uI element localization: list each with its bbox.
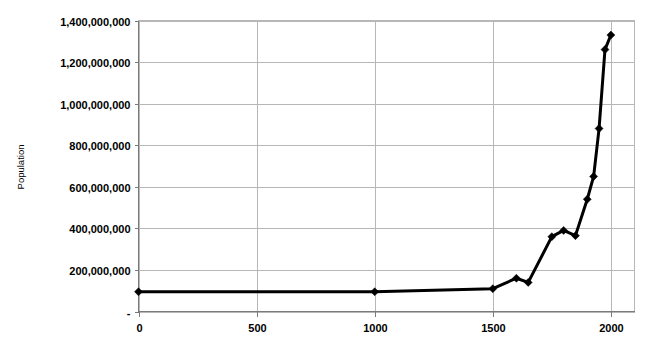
chart-background [0, 0, 647, 351]
y-tick-label: 200,000,000 [69, 265, 130, 277]
x-tick-label: 0 [136, 322, 142, 334]
x-tick-label: 1000 [363, 322, 387, 334]
chart-canvas: 1,400,000,0001,200,000,0001,000,000,0008… [0, 0, 647, 351]
y-tick-label: 400,000,000 [69, 223, 130, 235]
y-tick-label: - [127, 307, 131, 319]
y-tick-label: 1,200,000,000 [60, 57, 130, 69]
y-tick-label: 800,000,000 [69, 140, 130, 152]
x-tick-label: 2000 [599, 322, 623, 334]
population-chart: 1,400,000,0001,200,000,0001,000,000,0008… [0, 0, 647, 351]
x-tick-label: 1500 [481, 322, 505, 334]
y-tick-label: 600,000,000 [69, 182, 130, 194]
y-axis-title: Population [15, 145, 26, 190]
y-tick-label: 1,400,000,000 [60, 16, 130, 28]
x-tick-label: 500 [248, 322, 266, 334]
y-tick-label: 1,000,000,000 [60, 99, 130, 111]
